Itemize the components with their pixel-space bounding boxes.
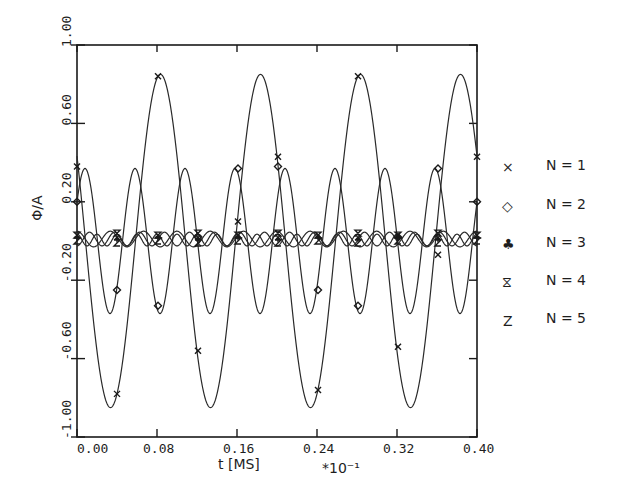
y-axis: 1.000.600.20-0.20-0.60-1.00 xyxy=(59,16,477,439)
x-tick-label: 0.32 xyxy=(383,441,414,456)
y-tick-label: 0.60 xyxy=(59,94,74,125)
x-axis-multiplier: *10⁻¹ xyxy=(322,460,360,476)
x-axis: 0.000.080.160.240.320.40 xyxy=(77,45,494,456)
x-axis-title: t [MS] xyxy=(218,456,260,472)
legend: × N = 1 ◇ N = 2 ♣ N = 3 ⧖ N = 4 Z N = 5 xyxy=(502,157,586,329)
x-mark-icon: × xyxy=(502,159,514,175)
curve-n1 xyxy=(77,74,477,407)
legend-label: N = 2 xyxy=(546,196,586,212)
x-tick-label: 0.40 xyxy=(463,441,494,456)
legend-label: N = 5 xyxy=(546,310,586,326)
legend-label: N = 4 xyxy=(546,272,586,288)
hourglass-icon: ⧖ xyxy=(502,274,512,290)
x-tick-label: 0.24 xyxy=(303,441,334,456)
z-mark-icon: Z xyxy=(503,313,513,329)
x-tick-label: 0.08 xyxy=(143,441,174,456)
x-marker-icon xyxy=(275,154,281,160)
plot-border xyxy=(77,45,477,437)
x-marker-icon xyxy=(355,73,361,79)
curve-n2 xyxy=(77,168,477,313)
x-marker-icon xyxy=(435,252,441,258)
y-tick-label: 0.20 xyxy=(59,172,74,203)
y-tick-label: -0.20 xyxy=(59,243,74,282)
club-icon: ♣ xyxy=(502,236,515,252)
x-tick-label: 0.16 xyxy=(223,441,254,456)
legend-item-n4: ⧖ N = 4 xyxy=(502,272,586,290)
legend-item-n2: ◇ N = 2 xyxy=(502,196,586,214)
y-tick-label: -0.60 xyxy=(59,321,74,360)
diamond-icon: ◇ xyxy=(502,198,513,214)
legend-label: N = 1 xyxy=(546,157,586,173)
diamond-marker-icon xyxy=(315,287,322,294)
plot-frame xyxy=(77,45,477,437)
x-tick-label: 0.00 xyxy=(77,441,108,456)
legend-label: N = 3 xyxy=(546,234,586,250)
x-marker-icon xyxy=(195,348,201,354)
legend-item-n1: × N = 1 xyxy=(502,157,586,175)
legend-item-n3: ♣ N = 3 xyxy=(502,234,586,252)
y-axis-title: Φ/A xyxy=(29,195,45,221)
chart-canvas: 0.000.080.160.240.320.40 1.000.600.20-0.… xyxy=(0,0,622,482)
y-tick-label: 1.00 xyxy=(59,16,74,47)
x-marker-icon xyxy=(155,73,161,79)
y-tick-label: -1.00 xyxy=(59,400,74,439)
legend-item-n5: Z N = 5 xyxy=(503,310,586,329)
hourglass-marker-icon xyxy=(195,230,201,236)
data-curves xyxy=(77,74,477,407)
hourglass-marker-icon xyxy=(355,230,361,236)
